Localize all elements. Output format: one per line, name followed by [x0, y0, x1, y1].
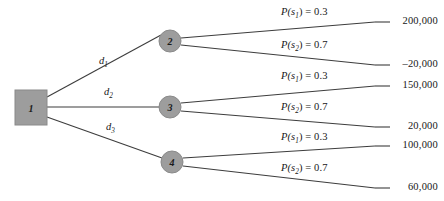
branch-label-d3: d3: [106, 121, 115, 135]
payoff-2-s1: 200,000: [336, 15, 438, 26]
prob-label-3-s2: P(s2) = 0.7: [281, 101, 328, 115]
branch-label-d2: d2: [104, 86, 113, 100]
decision-node-1-label: 1: [29, 103, 34, 114]
payoff-4-s1: 100,000: [336, 139, 438, 150]
payoff-3-s2: 20,000: [336, 120, 438, 131]
decision-tree-diagram: 1 2 3 4 d1 d2 d3 P(s1) = 0.3 P(s2) = 0.7…: [0, 0, 444, 201]
tree-graphics: 1 2 3 4: [0, 0, 444, 201]
payoff-3-s1: 150,000: [336, 79, 438, 90]
prob-label-2-s1: P(s1) = 0.3: [281, 6, 328, 20]
prob-label-4-s1: P(s1) = 0.3: [281, 131, 328, 145]
chance-node-4-label: 4: [169, 157, 175, 168]
payoff-4-s2: 60,000: [336, 181, 438, 192]
branch-label-d1: d1: [99, 55, 108, 69]
payoff-2-s2: –20,000: [336, 58, 438, 69]
branch-line-d3: [47, 117, 162, 158]
prob-label-4-s2: P(s2) = 0.7: [281, 162, 328, 176]
chance-node-2-label: 2: [167, 36, 173, 47]
prob-label-2-s2: P(s2) = 0.7: [281, 39, 328, 53]
prob-label-3-s1: P(s1) = 0.3: [281, 70, 328, 84]
chance-node-3-label: 3: [167, 102, 173, 113]
